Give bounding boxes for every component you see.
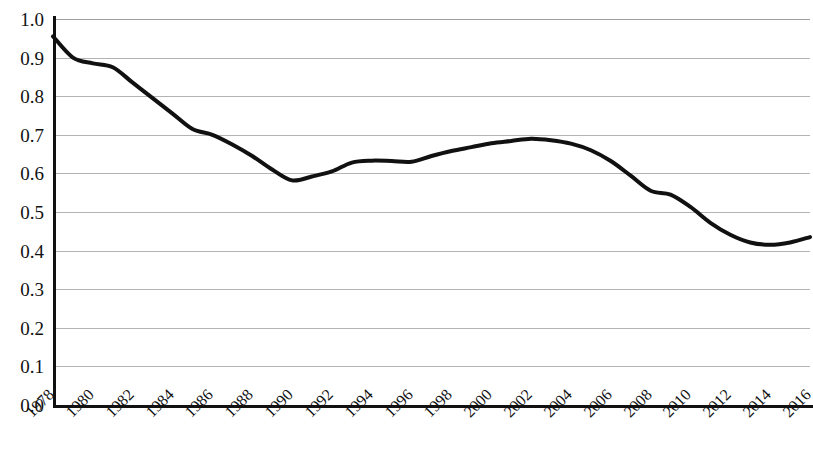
y-axis-tick-label: 0.2 xyxy=(20,318,44,337)
y-axis-tick-label: 0.3 xyxy=(20,280,44,299)
y-axis-tick-label: 0.4 xyxy=(20,241,44,260)
line-chart: 0.00.10.20.30.40.50.60.70.80.91.0 197819… xyxy=(0,0,813,459)
y-axis-tick-label: 0.1 xyxy=(20,357,44,376)
series-line-value xyxy=(53,19,810,405)
y-axis-tick-label: 0.6 xyxy=(20,164,44,183)
y-axis-tick-label: 1.0 xyxy=(20,10,44,29)
y-axis-tick-label: 0.5 xyxy=(20,203,44,222)
y-axis-tick-label: 0.7 xyxy=(20,125,44,144)
y-axis-tick-label: 0.8 xyxy=(20,87,44,106)
plot-area xyxy=(53,19,810,405)
y-axis-tick-label: 0.9 xyxy=(20,48,44,67)
x-axis-tick-labels: 1978198019821984198619881990199219941996… xyxy=(53,409,813,459)
